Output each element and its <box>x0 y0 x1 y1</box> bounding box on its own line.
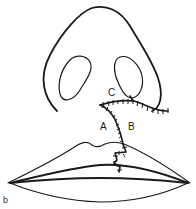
lower-lip-outline <box>10 183 188 202</box>
z-plasty-suture <box>114 144 126 172</box>
label-b: B <box>128 121 135 132</box>
right-nostril <box>115 57 143 98</box>
label-c: C <box>108 87 115 98</box>
mouth-line <box>10 178 188 183</box>
panel-label: b <box>3 195 8 205</box>
label-a: A <box>100 121 107 132</box>
left-nostril <box>59 56 91 100</box>
nose-lip-diagram: C A B b <box>0 0 196 209</box>
